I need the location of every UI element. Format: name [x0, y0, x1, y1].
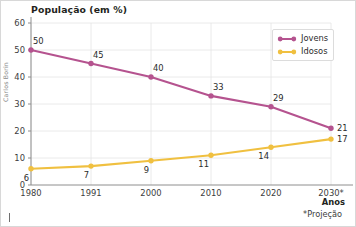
series-line-jovens [31, 50, 331, 128]
x-tick-label: 1980 [20, 188, 41, 198]
legend-label-idosos: Idosos [301, 46, 328, 57]
y-tick-label: 10 [14, 153, 25, 163]
y-tick-label: 40 [14, 72, 25, 82]
data-point-jovens [88, 61, 93, 66]
data-label-jovens: 33 [213, 82, 224, 92]
data-point-idosos [268, 145, 273, 150]
x-tick-label: 2010 [200, 188, 221, 198]
chart-figure: Carlos Borin População (em %) 0102030405… [0, 0, 356, 227]
data-point-jovens [28, 47, 33, 52]
chart-legend: Jovens Idosos [272, 29, 334, 61]
data-point-idosos [148, 158, 153, 163]
data-point-jovens [328, 126, 333, 131]
data-label-idosos: 6 [24, 173, 29, 183]
data-label-jovens: 29 [273, 93, 284, 103]
data-label-idosos: 9 [144, 165, 149, 175]
y-axis-ticks: 0102030405060 [14, 18, 31, 190]
chart-footnote: *Projeção [303, 209, 342, 219]
data-label-idosos: 17 [337, 134, 348, 144]
data-point-jovens [208, 93, 213, 98]
data-point-jovens [148, 74, 153, 79]
data-label-idosos: 14 [258, 151, 269, 161]
legend-item-idosos[interactable]: Idosos [277, 46, 328, 57]
legend-item-jovens[interactable]: Jovens [277, 33, 328, 44]
x-tick-label: 2020 [260, 188, 281, 198]
data-label-idosos: 11 [198, 159, 209, 169]
series-layer [28, 47, 333, 171]
x-tick-label: 2000 [140, 188, 161, 198]
data-label-jovens: 50 [33, 36, 44, 46]
corner-mark [9, 213, 10, 222]
x-tick-label: 1991 [80, 188, 101, 198]
data-label-jovens: 40 [153, 63, 164, 73]
data-point-idosos [88, 163, 93, 168]
data-point-idosos [208, 153, 213, 158]
data-point-idosos [28, 166, 33, 171]
data-label-jovens: 45 [93, 50, 104, 60]
legend-swatch-jovens [277, 34, 297, 44]
x-axis-ticks: 198019912000201020202030* [20, 188, 343, 198]
data-point-idosos [328, 136, 333, 141]
y-tick-label: 50 [14, 45, 25, 55]
legend-swatch-idosos [277, 47, 297, 57]
y-tick-label: 20 [14, 126, 25, 136]
y-tick-label: 30 [14, 99, 25, 109]
legend-label-jovens: Jovens [301, 33, 328, 44]
y-tick-label: 60 [14, 18, 25, 28]
data-label-jovens: 21 [337, 123, 348, 133]
data-label-idosos: 7 [84, 170, 89, 180]
data-point-jovens [268, 104, 273, 109]
series-line-idosos [31, 139, 331, 169]
x-axis-title: Anos [322, 197, 345, 207]
